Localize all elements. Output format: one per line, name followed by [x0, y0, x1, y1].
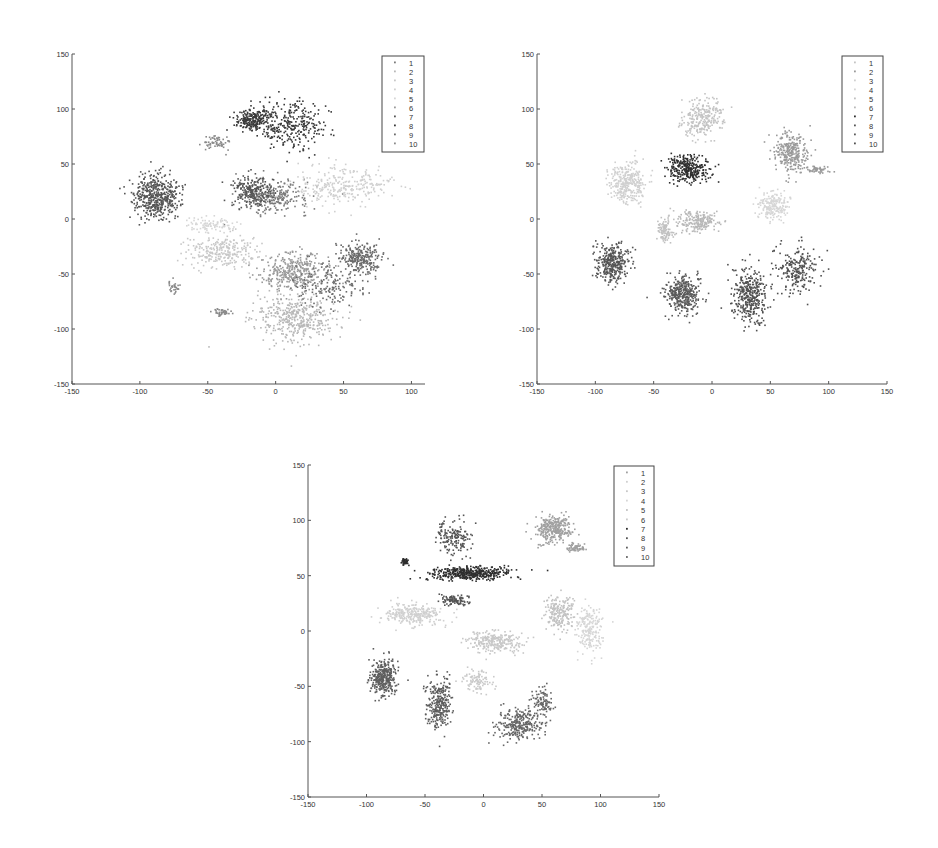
x-tick-label: 100 — [594, 800, 607, 809]
legend-label: 3 — [641, 487, 645, 496]
x-tick-label: 0 — [710, 387, 714, 396]
y-tick-label: -100 — [54, 325, 69, 334]
y-tick-label: 150 — [521, 50, 534, 59]
x-tick-label: -100 — [132, 387, 147, 396]
x-tick-label: 50 — [538, 800, 546, 809]
series-8 — [435, 515, 477, 607]
legend-marker — [626, 481, 628, 483]
legend-marker — [394, 71, 396, 73]
legend-marker — [394, 62, 396, 64]
legend-marker — [626, 509, 628, 511]
y-tick-label: 50 — [526, 160, 534, 169]
series-4 — [574, 598, 613, 664]
legend-marker — [394, 107, 396, 109]
y-tick-label: -150 — [290, 793, 305, 802]
legend-label: 6 — [641, 516, 645, 525]
legend-label: 4 — [409, 86, 413, 95]
legend-label: 10 — [409, 140, 417, 149]
series-4 — [753, 187, 792, 224]
legend-marker — [626, 519, 628, 521]
legend-marker — [394, 89, 396, 91]
legend-marker — [854, 125, 856, 127]
legend-label: 5 — [869, 95, 873, 104]
legend-label: 4 — [641, 497, 645, 506]
legend-label: 9 — [641, 544, 645, 553]
legend-label: 3 — [409, 77, 413, 86]
legend-label: 10 — [869, 140, 877, 149]
series-7 — [119, 161, 276, 226]
x-tick-label: -50 — [648, 387, 659, 396]
y-tick-label: -100 — [290, 738, 305, 747]
legend-marker — [394, 98, 396, 100]
legend-marker — [854, 62, 856, 64]
series-5 — [656, 208, 678, 244]
legend-marker — [394, 143, 396, 145]
x-tick-label: 150 — [653, 800, 666, 809]
series-6 — [455, 666, 497, 695]
data-points — [119, 91, 411, 367]
legend-marker — [626, 556, 628, 558]
legend-marker — [626, 547, 628, 549]
legend-marker — [854, 89, 856, 91]
x-tick-label: 0 — [274, 387, 278, 396]
data-points — [367, 511, 614, 747]
x-tick-label: -50 — [420, 800, 431, 809]
y-tick-label: 150 — [292, 461, 305, 470]
legend-label: 8 — [641, 534, 645, 543]
legend-label: 9 — [869, 131, 873, 140]
series-8 — [226, 91, 334, 162]
y-tick-label: -150 — [519, 380, 534, 389]
legend-label: 1 — [409, 59, 413, 68]
series-1 — [525, 511, 587, 553]
legend-marker — [854, 71, 856, 73]
series-10 — [488, 683, 556, 746]
legend-label: 4 — [869, 86, 873, 95]
scatter-plot-bottom: -150-100-50050100150-150-100-50050100150… — [290, 461, 665, 809]
x-tick-label: 50 — [339, 387, 347, 396]
x-tick-label: -50 — [202, 387, 213, 396]
legend-label: 6 — [869, 104, 873, 113]
legend-label: 7 — [409, 113, 413, 122]
y-tick-label: -50 — [58, 270, 69, 279]
series-6 — [248, 246, 349, 300]
legend-label: 1 — [641, 469, 645, 478]
legend-label: 10 — [641, 553, 649, 562]
scatter-plot-top-left: -150-100-50050100-150-100-50050100150123… — [54, 50, 425, 396]
legend-marker — [626, 500, 628, 502]
legend: 12345678910 — [614, 466, 654, 566]
legend-label: 2 — [409, 68, 413, 77]
y-tick-label: 150 — [56, 50, 69, 59]
x-tick-label: 0 — [481, 800, 485, 809]
y-tick-label: 100 — [56, 105, 69, 114]
x-tick-label: 150 — [881, 387, 894, 396]
legend-marker — [626, 490, 628, 492]
y-tick-label: 0 — [301, 627, 305, 636]
series-9 — [367, 648, 454, 747]
legend-marker — [626, 528, 628, 530]
legend-label: 3 — [869, 77, 873, 86]
series-7 — [661, 153, 720, 187]
legend-marker — [854, 116, 856, 118]
y-tick-label: 50 — [61, 160, 69, 169]
legend-marker — [394, 125, 396, 127]
legend: 12345678910 — [842, 56, 883, 152]
series-2 — [764, 125, 835, 183]
y-tick-label: -50 — [294, 682, 305, 691]
legend-label: 1 — [869, 59, 873, 68]
legend-marker — [854, 134, 856, 136]
y-tick-label: 100 — [292, 516, 305, 525]
x-tick-label: -100 — [359, 800, 374, 809]
series-1 — [678, 93, 732, 143]
series-4 — [276, 157, 411, 216]
legend-label: 2 — [641, 478, 645, 487]
legend: 12345678910 — [382, 56, 424, 152]
series-2 — [208, 284, 361, 367]
data-points — [592, 93, 835, 332]
series-10 — [721, 237, 830, 332]
x-tick-label: 100 — [822, 387, 835, 396]
y-tick-label: -150 — [54, 380, 69, 389]
legend-label: 7 — [641, 525, 645, 534]
scatter-plot-top-left: -150-100-50050100-150-100-50050100150123… — [0, 0, 938, 848]
x-tick-label: 50 — [766, 387, 774, 396]
legend-label: 5 — [409, 95, 413, 104]
